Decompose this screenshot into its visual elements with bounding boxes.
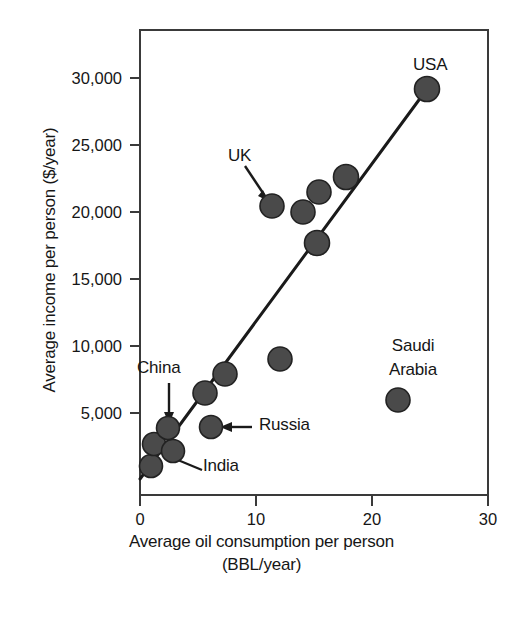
x-axis-title: Average oil consumption per person (BBL/…: [0, 530, 523, 576]
y-tick-label-5000: 5,000: [10, 404, 122, 423]
x-tick-label-10: 10: [247, 510, 265, 529]
label-india: India: [203, 456, 239, 476]
scatter-chart-figure: 30,000 25,000 20,000 15,000 10,000 5,000…: [0, 0, 523, 618]
y-tick-label-30000: 30,000: [10, 69, 122, 88]
data-point-marker[interactable]: [213, 362, 237, 386]
x-tick-label-30: 30: [479, 510, 497, 529]
y-tick-label-10000: 10,000: [10, 337, 122, 356]
label-russia: Russia: [259, 415, 310, 435]
label-usa: USA: [413, 55, 447, 75]
x-axis-ticks: [140, 495, 488, 506]
x-tick-label-20: 20: [363, 510, 381, 529]
data-point-marker[interactable]: [334, 165, 359, 190]
data-point-marker[interactable]: [307, 180, 331, 204]
data-point-marker-india[interactable]: [162, 440, 185, 463]
y-tick-label-25000: 25,000: [10, 136, 122, 155]
y-tick-label-15000: 15,000: [10, 270, 122, 289]
data-point-marker-uk[interactable]: [260, 194, 284, 218]
data-point-marker[interactable]: [193, 381, 217, 405]
data-point-marker[interactable]: [268, 347, 292, 371]
russia-annotation-arrow: [220, 422, 252, 432]
label-saudi-arabia-line2: Arabia: [368, 358, 458, 382]
x-axis-title-main: Average oil consumption per person: [0, 530, 523, 553]
y-axis-title: Average income per person ($/year): [40, 40, 60, 480]
data-point-marker[interactable]: [305, 231, 330, 256]
data-point-marker-china[interactable]: [157, 417, 180, 440]
data-point-marker[interactable]: [140, 455, 163, 478]
label-uk: UK: [228, 146, 251, 166]
x-tick-label-0: 0: [135, 510, 144, 529]
data-point-marker-usa[interactable]: [415, 77, 440, 102]
label-saudi-arabia-line1: Saudi: [368, 334, 458, 358]
y-tick-label-20000: 20,000: [10, 203, 122, 222]
label-china: China: [137, 358, 180, 378]
data-point-marker[interactable]: [291, 200, 315, 224]
plot-frame: [140, 30, 488, 495]
x-axis-title-units: (BBL/year): [0, 553, 523, 576]
data-point-marker-saudi-arabia[interactable]: [386, 388, 410, 412]
data-point-marker-russia[interactable]: [200, 416, 223, 439]
